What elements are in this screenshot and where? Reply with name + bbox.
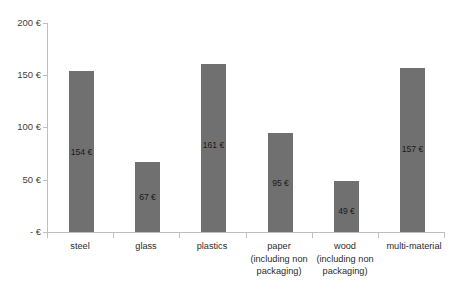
y-axis-tick-100 bbox=[43, 127, 48, 128]
x-axis-category-paper: paper (including non packaging) bbox=[243, 240, 315, 278]
x-axis-category-glass: glass bbox=[113, 240, 179, 253]
x-axis-tick-2 bbox=[179, 233, 180, 238]
bar-value-plastics: 161 € bbox=[191, 140, 236, 150]
x-axis-category-steel: steel bbox=[47, 240, 113, 253]
x-axis-tick-1 bbox=[113, 233, 114, 238]
x-axis-tick-4 bbox=[312, 233, 313, 238]
y-axis-line bbox=[47, 23, 48, 233]
x-axis-tick-3 bbox=[246, 233, 247, 238]
y-axis-tick-50 bbox=[43, 180, 48, 181]
x-axis-category-multi-material: multi-material bbox=[376, 240, 452, 253]
y-axis-label-0: - € bbox=[0, 227, 41, 237]
x-axis-category-wood: wood (including non packaging) bbox=[309, 240, 381, 278]
y-axis-label-100: 100 € bbox=[0, 122, 41, 132]
bar-value-wood: 49 € bbox=[324, 206, 369, 216]
y-axis-label-200: 200 € bbox=[0, 18, 41, 28]
bar-chart: 200 € 150 € 100 € 50 € - € 154 € 67 € 16… bbox=[0, 0, 464, 299]
y-axis-tick-150 bbox=[43, 75, 48, 76]
bar-value-paper: 95 € bbox=[258, 178, 303, 188]
y-axis-label-0-text: - € bbox=[3, 227, 41, 237]
y-axis-label-50-text: 50 € bbox=[3, 175, 41, 185]
y-axis-label-200-text: 200 € bbox=[3, 18, 41, 28]
y-axis-label-150: 150 € bbox=[0, 70, 41, 80]
y-axis-label-50: 50 € bbox=[0, 175, 41, 185]
y-axis-label-100-text: 100 € bbox=[3, 122, 41, 132]
x-axis-tick-5 bbox=[378, 233, 379, 238]
y-axis-label-150-text: 150 € bbox=[3, 70, 41, 80]
bar-value-multi-material: 157 € bbox=[390, 144, 435, 154]
x-axis-category-plastics: plastics bbox=[179, 240, 245, 253]
bar-value-steel: 154 € bbox=[59, 147, 104, 157]
bar-value-glass: 67 € bbox=[125, 192, 170, 202]
x-axis-tick-6 bbox=[444, 233, 445, 238]
x-axis-tick-0 bbox=[47, 233, 48, 238]
y-axis-tick-200 bbox=[43, 23, 48, 24]
